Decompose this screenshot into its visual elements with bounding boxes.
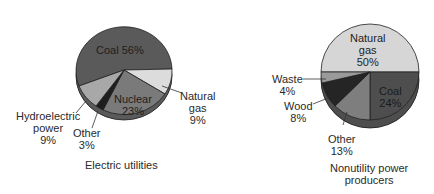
label-nuclear-pct: 23% bbox=[114, 105, 152, 117]
title-line2: producers bbox=[330, 174, 408, 186]
chart-title-electric-utilities: Electric utilities bbox=[85, 159, 158, 171]
label-wood: Wood 8% bbox=[284, 100, 313, 124]
leader-other bbox=[92, 111, 98, 128]
label-hydro-line2: power bbox=[16, 122, 80, 134]
label-hydroelectric: Hydroelectric power 9% bbox=[16, 110, 80, 146]
label-other-pct: 3% bbox=[73, 139, 101, 151]
label-wood-name: Wood bbox=[284, 100, 313, 112]
label-other-name: Other bbox=[73, 127, 101, 139]
label-waste-name: Waste bbox=[272, 73, 303, 85]
label-coal-name: Coal bbox=[379, 85, 402, 97]
label-wood-pct: 8% bbox=[284, 112, 313, 124]
label-waste-pct: 4% bbox=[272, 85, 303, 97]
label-other-nonutility: Other 13% bbox=[328, 133, 356, 157]
label-waste: Waste 4% bbox=[272, 73, 303, 97]
label-gas-line2: gas bbox=[180, 102, 215, 114]
label-gas-pct: 50% bbox=[350, 56, 385, 68]
label-natural-gas-nonutility: Natural gas 50% bbox=[350, 32, 385, 68]
label-gas-pct: 9% bbox=[180, 114, 215, 126]
label-coal: Coal 56% bbox=[96, 44, 144, 56]
label-hydro-pct: 9% bbox=[16, 134, 80, 146]
label-nuclear: Nuclear 23% bbox=[114, 93, 152, 117]
label-gas-line1: Natural bbox=[350, 32, 385, 44]
label-other-name: Other bbox=[328, 133, 356, 145]
label-coal-pct: 24% bbox=[379, 97, 402, 109]
chart-title-nonutility: Nonutility power producers bbox=[330, 162, 408, 186]
label-natural-gas: Natural gas 9% bbox=[180, 90, 215, 126]
label-other-pct: 13% bbox=[328, 145, 356, 157]
title-line1: Nonutility power bbox=[330, 162, 408, 174]
label-hydro-line1: Hydroelectric bbox=[16, 110, 80, 122]
label-other: Other 3% bbox=[73, 127, 101, 151]
label-gas-line1: Natural bbox=[180, 90, 215, 102]
label-gas-line2: gas bbox=[350, 44, 385, 56]
label-coal-nonutility: Coal 24% bbox=[379, 85, 402, 109]
label-nuclear-name: Nuclear bbox=[114, 93, 152, 105]
